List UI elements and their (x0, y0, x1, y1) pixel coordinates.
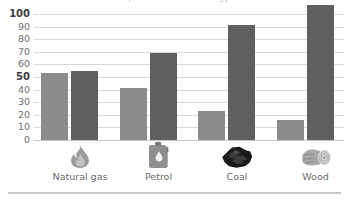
bar-light (120, 88, 147, 140)
y-axis-tick-90: 90 (0, 22, 30, 32)
category-natural-gas: Natural gas (37, 142, 123, 183)
bar-group (198, 0, 276, 140)
bar-group (277, 0, 348, 140)
bar-dark (307, 5, 334, 140)
y-axis-tick-50: 50 (0, 72, 30, 82)
jerrycan-icon (116, 142, 202, 169)
y-axis-tick-0: 0 (0, 135, 30, 145)
bar-group (120, 0, 198, 140)
bar-dark (150, 53, 177, 140)
y-axis-tick-80: 80 (0, 34, 30, 44)
wood-log-icon (273, 142, 348, 169)
bars-layer (34, 0, 344, 141)
category-axis: Natural gas Petrol Coal Wood (34, 142, 344, 188)
bar-light (41, 73, 68, 140)
y-axis-tick-10: 10 (0, 122, 30, 132)
y-axis-tick-30: 30 (0, 97, 30, 107)
y-axis-tick-100: 100 (0, 9, 30, 19)
category-label: Natural gas (37, 170, 123, 183)
bar-chart-figure: Comparison of fuels: energy and emission… (0, 0, 348, 201)
bottom-divider (8, 192, 341, 194)
coal-lump-icon (194, 142, 280, 169)
bar-group (41, 0, 119, 140)
bar-dark (228, 25, 255, 140)
category-petrol: Petrol (116, 142, 202, 183)
category-label: Coal (194, 170, 280, 183)
category-label: Petrol (116, 170, 202, 183)
bar-light (198, 111, 225, 140)
category-wood: Wood (273, 142, 348, 183)
category-coal: Coal (194, 142, 280, 183)
y-axis-tick-40: 40 (0, 85, 30, 95)
y-axis-tick-70: 70 (0, 47, 30, 57)
flame-icon (37, 142, 123, 169)
y-axis-tick-20: 20 (0, 110, 30, 120)
bar-light (277, 120, 304, 140)
y-axis-tick-60: 60 (0, 59, 30, 69)
bar-dark (71, 71, 98, 140)
category-label: Wood (273, 170, 348, 183)
